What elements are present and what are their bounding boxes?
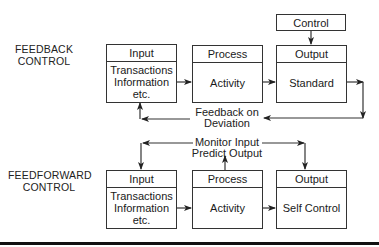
feedback-input-line3: etc. (133, 88, 151, 100)
feedback-process-body: Activity (193, 63, 262, 102)
feedback-input-box: Input Transactions Information etc. (106, 44, 177, 103)
feedback-loop-line2: Deviation (190, 118, 264, 129)
bottom-divider-rule (0, 242, 379, 245)
feedforward-input-line1: Transactions (110, 190, 173, 202)
feedforward-process-body: Activity (193, 188, 262, 228)
feedforward-output-box: Output Self Control (276, 170, 347, 229)
feedforward-input-header: Input (107, 171, 176, 188)
control-box-label: Control (277, 15, 345, 30)
feedforward-input-box: Input Transactions Information etc. (106, 170, 177, 229)
feedforward-loop-line2: Predict Output (187, 148, 267, 159)
control-box: Control (276, 14, 346, 31)
feedback-output-body: Standard (277, 63, 346, 102)
feedback-input-header: Input (107, 45, 176, 62)
feedback-on-deviation-label: Feedback on Deviation (190, 107, 264, 129)
feedforward-input-line2: Information (114, 202, 169, 214)
feedforward-input-body: Transactions Information etc. (107, 188, 176, 228)
feedforward-process-header: Process (193, 171, 262, 188)
monitor-input-predict-output-label: Monitor Input Predict Output (187, 137, 267, 159)
feedforward-output-body: Self Control (277, 188, 346, 228)
feedforward-input-line3: etc. (133, 214, 151, 226)
feedback-process-box: Process Activity (192, 45, 263, 103)
feedforward-output-header: Output (277, 171, 346, 188)
feedback-input-line1: Transactions (110, 64, 173, 76)
feedback-output-box: Output Standard (276, 45, 347, 103)
feedforward-process-box: Process Activity (192, 170, 263, 229)
feedback-process-header: Process (193, 46, 262, 63)
feedback-input-line2: Information (114, 76, 169, 88)
feedback-output-header: Output (277, 46, 346, 63)
feedback-input-body: Transactions Information etc. (107, 62, 176, 102)
